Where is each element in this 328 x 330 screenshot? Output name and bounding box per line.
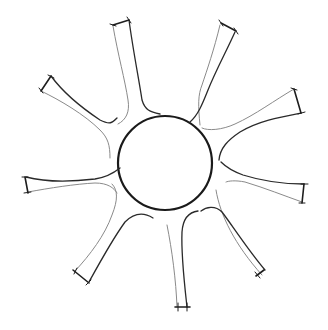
arm-right-upper: [202, 88, 305, 160]
center-circle: [118, 116, 212, 210]
arm-bottom: [167, 211, 198, 311]
arm-top-left: [110, 17, 160, 124]
arm-bottom-left: [73, 184, 153, 285]
arm-right-lower: [221, 162, 308, 203]
arm-top-right: [190, 20, 238, 125]
arm-bottom-right: [201, 190, 265, 278]
sun-sketch: [0, 0, 328, 330]
arm-upper-left: [39, 75, 117, 158]
sketch-canvas: [0, 0, 328, 330]
arm-left: [22, 168, 120, 193]
